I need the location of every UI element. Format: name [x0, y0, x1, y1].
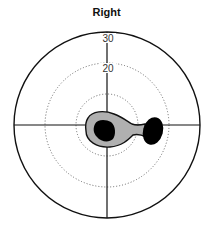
tick-20: 20 — [102, 63, 114, 74]
polar-plot: 30 20 — [0, 0, 213, 234]
tick-30: 30 — [102, 33, 114, 44]
inner-peak-right — [140, 115, 167, 147]
